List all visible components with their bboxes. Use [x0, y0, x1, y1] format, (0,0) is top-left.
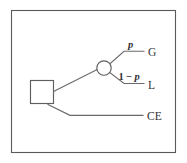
probability-loss-operator: − — [126, 71, 132, 82]
decision-node[interactable] — [31, 81, 54, 104]
probability-label-gain: p — [127, 39, 133, 50]
decision-tree-diagram: p G 1−p L CE — [0, 0, 187, 163]
chance-node[interactable] — [97, 61, 111, 75]
outcome-label-certainty-equivalent: CE — [147, 110, 162, 122]
figure-root: p G 1−p L CE — [0, 0, 187, 163]
probability-loss-prefix: 1 — [119, 71, 124, 82]
probability-loss-variable: p — [134, 71, 140, 82]
outcome-label-gain: G — [148, 46, 156, 58]
outcome-label-loss: L — [148, 79, 155, 91]
probability-label-loss: 1−p — [119, 71, 140, 82]
